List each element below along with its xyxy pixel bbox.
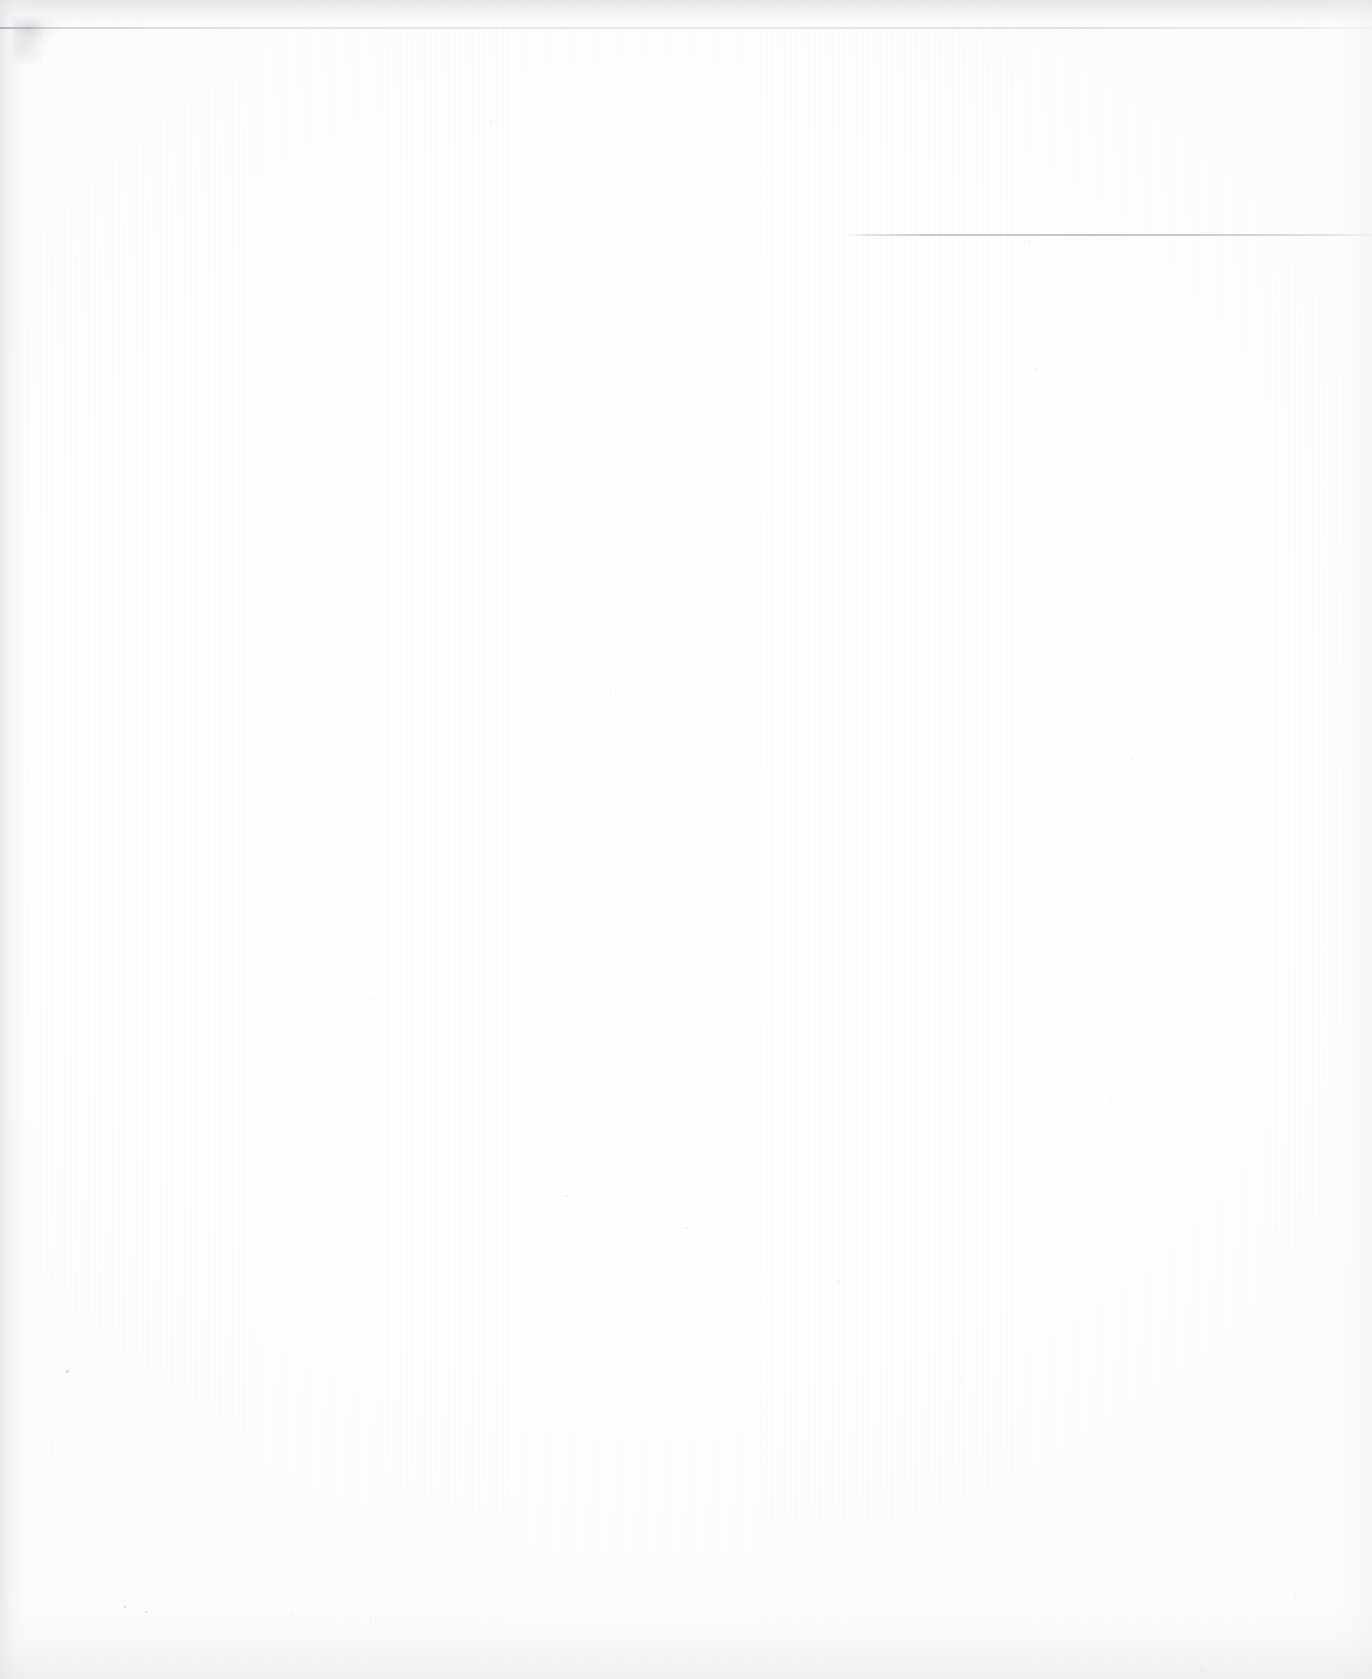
- right-edge-shadow: [1320, 0, 1372, 1679]
- top-edge-shadow: [0, 0, 1372, 30]
- scanned-page: [0, 0, 1372, 1679]
- left-edge-shadow: [0, 0, 34, 1679]
- faint-horizontal-rule: [845, 234, 1372, 236]
- scanner-smudge: [12, 16, 70, 64]
- paper-field: [0, 0, 1372, 1679]
- bottom-edge-shadow: [0, 1579, 1372, 1679]
- top-scan-edge-line: [0, 27, 1372, 29]
